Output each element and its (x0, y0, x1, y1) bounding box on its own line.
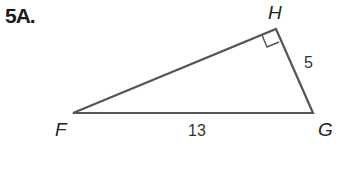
triangle-diagram: H F G 5 13 (0, 0, 340, 177)
vertex-label-h: H (268, 2, 282, 23)
side-label-fg: 13 (188, 122, 206, 139)
triangle-fgh (73, 29, 313, 113)
right-angle-marker (262, 35, 279, 47)
vertex-label-g: G (318, 119, 333, 140)
vertex-label-f: F (55, 119, 68, 140)
side-label-hg: 5 (304, 54, 313, 71)
